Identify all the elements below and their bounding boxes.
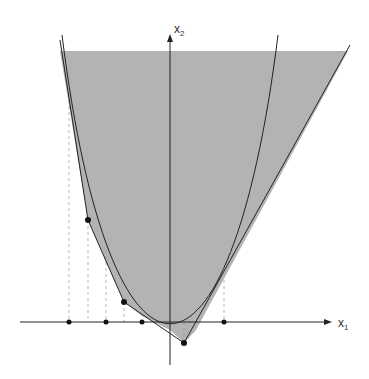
x1-arrow-icon [324,319,332,325]
diagram-canvas [0,0,369,379]
x2-axis-label: x2 [174,22,184,38]
shaded-region [60,51,348,343]
x2-arrow-icon [167,34,173,42]
x1-axis-label: x1 [338,316,348,332]
